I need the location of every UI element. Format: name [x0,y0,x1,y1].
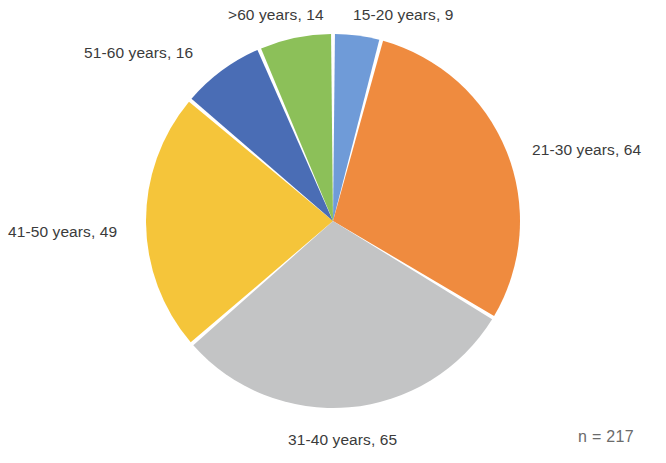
pie-slice-label-over-60-years: >60 years, 14 [228,6,324,24]
pie-slice-label-21-30-years: 21-30 years, 64 [532,141,641,159]
pie-slice-label-51-60-years: 51-60 years, 16 [84,44,193,62]
pie-chart: 15-20 years, 9 21-30 years, 64 31-40 yea… [0,0,666,463]
pie-slice-group [146,34,520,408]
pie-slice-label-15-20-years: 15-20 years, 9 [353,6,454,24]
sample-size-note: n = 217 [578,428,634,446]
pie-slice-label-41-50-years: 41-50 years, 49 [8,223,117,241]
pie-slice-label-31-40-years: 31-40 years, 65 [288,431,397,449]
